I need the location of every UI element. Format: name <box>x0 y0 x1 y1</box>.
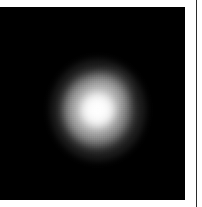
detector-noise-overlay <box>0 7 185 200</box>
source-lobe <box>88 69 132 113</box>
right-margin <box>185 0 196 207</box>
source-body <box>62 72 132 148</box>
source-halo <box>49 58 147 162</box>
source-core <box>81 93 115 127</box>
adjacent-panel-edge <box>197 0 202 207</box>
top-margin <box>0 0 185 7</box>
image-panel[interactable] <box>0 7 185 200</box>
figure-root <box>0 0 202 207</box>
bottom-margin <box>0 200 185 207</box>
